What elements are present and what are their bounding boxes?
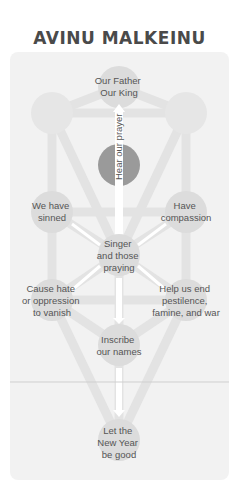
label-hear-our-prayer: Hear our prayer xyxy=(113,113,124,180)
node-upper-left xyxy=(31,92,73,134)
arrow-singer-inscribe xyxy=(116,278,122,318)
label-we-have-sinned: We have sinned xyxy=(32,200,72,223)
tree-diagram: Our Father Our King We have sinned Have … xyxy=(0,0,239,500)
label-our-father: Our Father Our King xyxy=(95,75,144,98)
label-help-us-end: Help us end pestilence, famine, and war xyxy=(152,283,220,318)
node-inscribe xyxy=(98,324,140,366)
arrow-inscribe-newyear xyxy=(116,368,122,410)
label-inscribe: Inscribe our names xyxy=(97,334,142,357)
node-upper-right xyxy=(165,92,207,134)
label-new-year: Let the New Year be good xyxy=(97,425,140,460)
